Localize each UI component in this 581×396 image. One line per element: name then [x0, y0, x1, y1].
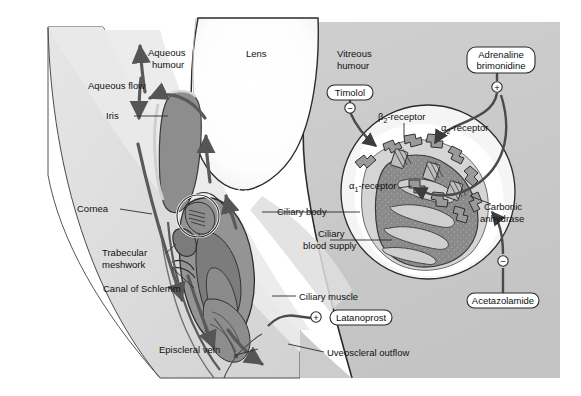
label-ciliary-blood-line2: blood supply: [303, 240, 357, 251]
label-aqueous-humour-line1: Aqueous: [148, 47, 186, 58]
label-aqueous-humour-line2: humour: [152, 59, 184, 70]
label-ciliary-muscle: Ciliary muscle: [299, 291, 358, 302]
drug-label-timolol: Timolol: [335, 87, 365, 98]
label-cornea: Cornea: [77, 203, 109, 214]
label-trabecular-line2: meshwork: [102, 259, 146, 270]
label-carbonic-anhydrase-line1: Carbonic: [484, 201, 522, 212]
stimulation-sign-latanoprost-glyph: +: [313, 312, 319, 323]
drug-label-adrenaline: Adrenaline: [478, 49, 523, 60]
label-trabecular-line1: Trabecular: [102, 247, 147, 258]
label-vitreous-humour-line1: Vitreous: [337, 48, 372, 59]
label-ciliary-body: Ciliary body: [277, 206, 327, 217]
ciliary-epithelium-inset: [341, 105, 515, 279]
label-ciliary-blood-line1: Ciliary: [318, 228, 345, 239]
inhibition-sign-acetazolamide-glyph: −: [500, 256, 506, 267]
inhibition-sign-timolol-glyph: −: [347, 103, 353, 114]
stimulation-sign-adrenaline-glyph: +: [494, 82, 500, 93]
label-carbonic-anhydrase-line2: anhydrase: [480, 213, 524, 224]
label-lens: Lens: [246, 48, 267, 59]
drug-label-acetazolamide: Acetazolamide: [472, 295, 534, 306]
label-aqueous-flow: Aqueous flow: [88, 80, 145, 91]
drug-label-latanoprost: Latanoprost: [336, 312, 387, 323]
label-vitreous-humour-line2: humour: [337, 60, 369, 71]
label-uveoscleral-outflow: Uveoscleral outflow: [327, 347, 410, 358]
drug-label-brimonidine: brimonidine: [476, 60, 525, 71]
figure-canvas: Aqueous humour Aqueous flow Iris Lens Vi…: [0, 0, 581, 396]
label-episcleral-vein: Episcleral vein: [159, 344, 220, 355]
label-canal-of-schlemm: Canal of Schlemm: [103, 283, 181, 294]
label-iris: Iris: [106, 110, 119, 121]
eye-anatomy-diagram: Aqueous humour Aqueous flow Iris Lens Vi…: [0, 0, 581, 396]
